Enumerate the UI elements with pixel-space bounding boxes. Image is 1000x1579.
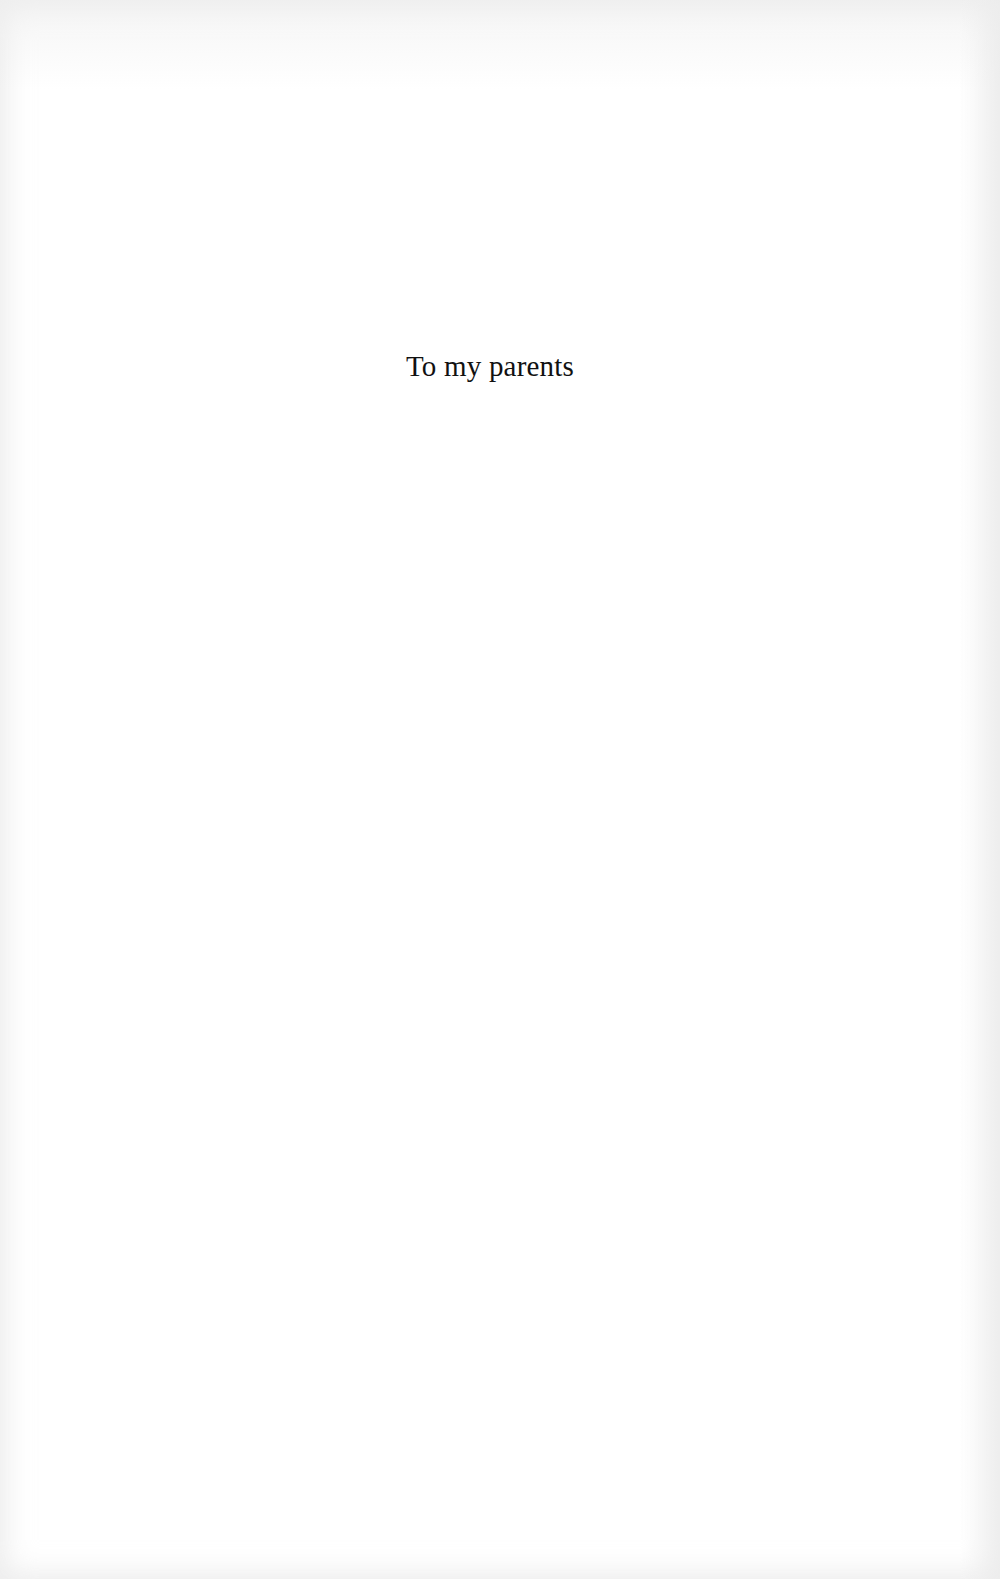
book-page: To my parents (0, 0, 1000, 1579)
dedication-text: To my parents (0, 350, 980, 383)
